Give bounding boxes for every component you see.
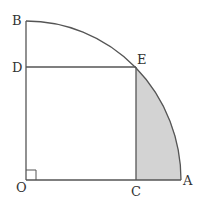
shaded-region — [136, 67, 181, 180]
label-B: B — [12, 14, 22, 27]
diagram-canvas: B D E O C A — [0, 0, 210, 207]
label-D: D — [12, 61, 22, 74]
quarter-circle-figure — [0, 0, 210, 207]
label-A: A — [183, 174, 192, 187]
label-C: C — [131, 185, 141, 198]
label-E: E — [137, 53, 147, 66]
right-angle-mark — [26, 170, 36, 180]
label-O: O — [16, 181, 27, 194]
